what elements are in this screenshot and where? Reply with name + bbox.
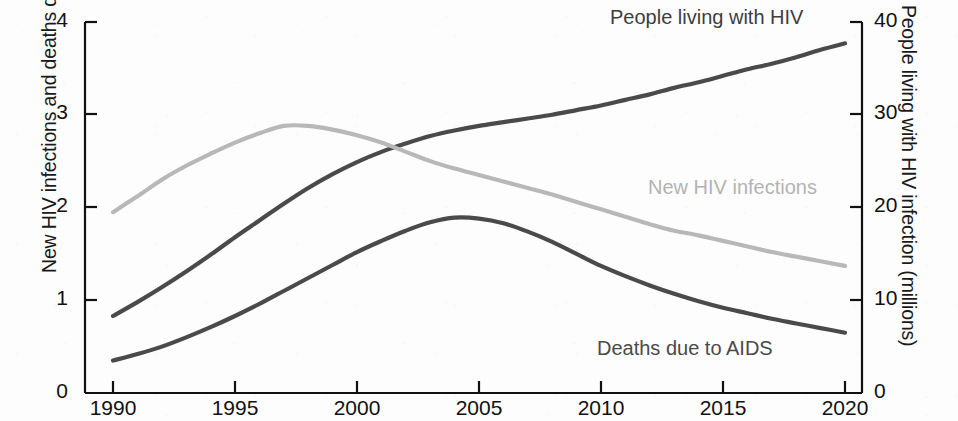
right-axis-ticks [850, 22, 862, 300]
x-tick-label-2010: 2010 [556, 396, 646, 420]
left-tick-label-4: 4 [38, 8, 68, 32]
left-tick-label-0: 0 [38, 379, 68, 403]
left-tick-label-2: 2 [38, 193, 68, 217]
series-label-new-hiv-infections: New HIV infections [648, 176, 817, 199]
left-axis-ticks [85, 22, 97, 300]
hiv-aids-trend-chart: New HIV infections and deaths due to AID… [0, 0, 958, 421]
x-axis-ticks [113, 381, 845, 393]
x-tick-label-2020: 2020 [800, 396, 890, 420]
x-tick-label-2000: 2000 [312, 396, 402, 420]
left-tick-label-1: 1 [38, 286, 68, 310]
x-tick-label-2015: 2015 [678, 396, 768, 420]
x-tick-label-2005: 2005 [434, 396, 524, 420]
series-label-deaths-due-to-aids: Deaths due to AIDS [597, 337, 773, 360]
left-axis-title: New HIV infections and deaths due to AID… [39, 5, 61, 273]
right-tick-label-20: 20 [874, 193, 908, 217]
left-tick-label-3: 3 [38, 100, 68, 124]
right-tick-label-30: 30 [874, 100, 908, 124]
right-tick-label-10: 10 [874, 286, 908, 310]
chart-plot-area [0, 0, 958, 421]
right-axis-title: People living with HIV infection (millio… [897, 5, 919, 273]
series-label-people-living-with-hiv: People living with HIV [610, 6, 803, 29]
x-tick-label-1995: 1995 [190, 396, 280, 420]
x-tick-label-1990: 1990 [68, 396, 158, 420]
right-tick-label-40: 40 [874, 8, 908, 32]
